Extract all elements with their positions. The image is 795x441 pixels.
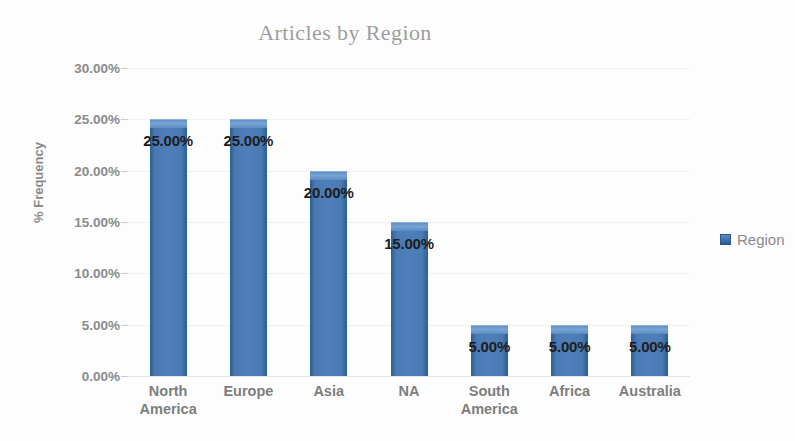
bar-top-highlight — [230, 119, 267, 128]
plot-area — [128, 68, 690, 376]
bar-rect — [150, 119, 187, 376]
legend-label-region: Region — [737, 231, 785, 248]
x-axis-category-label: NA — [369, 382, 449, 400]
y-tick-mark — [121, 119, 128, 120]
y-axis-tick-label: 10.00% — [42, 266, 120, 281]
gridline — [128, 171, 690, 172]
bar-chart: Articles by Region % Frequency Region 0.… — [0, 0, 795, 441]
y-axis-tick-label: 30.00% — [42, 61, 120, 76]
x-axis-category-label: Europe — [208, 382, 288, 400]
x-axis-category-label: Australia — [610, 382, 690, 400]
bar-top-highlight — [471, 325, 508, 334]
y-axis-tick-label: 20.00% — [42, 163, 120, 178]
gridline — [128, 119, 690, 120]
y-axis-tick-label: 0.00% — [42, 369, 120, 384]
chart-title: Articles by Region — [0, 20, 690, 46]
bar-value-label: 15.00% — [384, 235, 434, 252]
chart-legend: Region — [720, 231, 785, 248]
bar-value-label: 25.00% — [143, 132, 193, 149]
bar-value-label: 25.00% — [224, 132, 274, 149]
x-axis-category-label: Africa — [529, 382, 609, 400]
y-tick-mark — [121, 376, 128, 377]
bar-top-highlight — [391, 222, 428, 231]
bar-rect — [310, 171, 347, 376]
y-axis-tick-label: 15.00% — [42, 215, 120, 230]
bar-value-label: 5.00% — [549, 338, 591, 355]
bar-rect — [230, 119, 267, 376]
x-axis-category-label: North America — [128, 382, 208, 418]
y-tick-mark — [121, 325, 128, 326]
bar-value-label: 5.00% — [469, 338, 511, 355]
bar-top-highlight — [551, 325, 588, 334]
bar-asia[interactable] — [310, 171, 347, 376]
bar-value-label: 20.00% — [304, 184, 354, 201]
x-axis-category-label: South America — [449, 382, 529, 418]
bar-top-highlight — [150, 119, 187, 128]
y-axis-tick-label: 5.00% — [42, 317, 120, 332]
y-axis-tick-label: 25.00% — [42, 112, 120, 127]
gridline — [128, 68, 690, 69]
x-axis-category-label: Asia — [289, 382, 369, 400]
bar-europe[interactable] — [230, 119, 267, 376]
bar-value-label: 5.00% — [629, 338, 671, 355]
y-tick-mark — [121, 222, 128, 223]
y-tick-mark — [121, 68, 128, 69]
bar-north-america[interactable] — [150, 119, 187, 376]
bar-top-highlight — [631, 325, 668, 334]
legend-swatch-region — [720, 234, 731, 245]
gridline — [128, 376, 690, 377]
y-tick-mark — [121, 273, 128, 274]
bar-top-highlight — [310, 171, 347, 180]
y-tick-mark — [121, 171, 128, 172]
